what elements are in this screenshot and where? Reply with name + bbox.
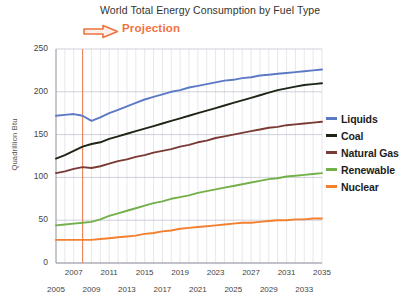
legend-item-liquids[interactable]: Liquids bbox=[326, 110, 420, 127]
legend-item-coal[interactable]: Coal bbox=[326, 127, 420, 144]
legend-swatch-icon bbox=[326, 134, 337, 137]
legend-label: Liquids bbox=[341, 113, 378, 125]
legend-swatch-icon bbox=[326, 168, 337, 171]
legend-item-natural-gas[interactable]: Natural Gas bbox=[326, 144, 420, 161]
legend-swatch-icon bbox=[326, 185, 337, 188]
legend-label: Renewable bbox=[341, 164, 395, 176]
legend-label: Coal bbox=[341, 130, 363, 142]
legend-swatch-icon bbox=[326, 117, 337, 120]
legend-swatch-icon bbox=[326, 151, 337, 154]
legend-item-renewable[interactable]: Renewable bbox=[326, 161, 420, 178]
legend-label: Nuclear bbox=[341, 181, 379, 193]
legend-label: Natural Gas bbox=[341, 147, 399, 159]
legend-item-nuclear[interactable]: Nuclear bbox=[326, 178, 420, 195]
chart-legend: LiquidsCoalNatural GasRenewableNuclear bbox=[326, 110, 420, 195]
chart-container: World Total Energy Consumption by Fuel T… bbox=[0, 0, 420, 306]
